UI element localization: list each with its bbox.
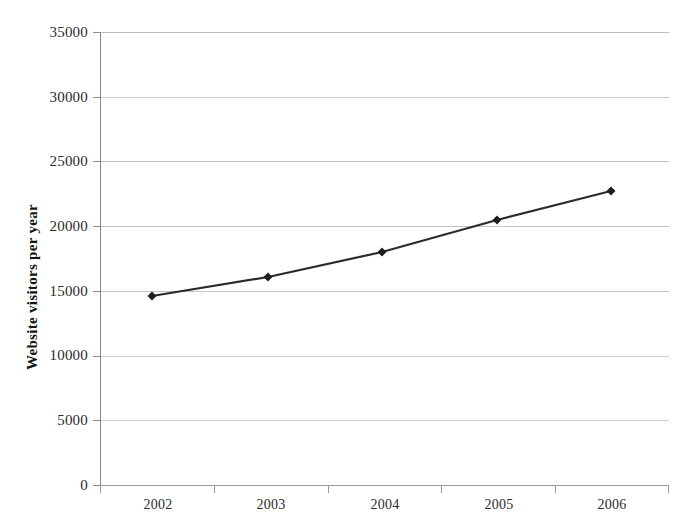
y-axis-title: Website visitors per year	[24, 70, 46, 370]
y-tick-label-0: 0	[24, 477, 88, 494]
x-tick-label-2003: 2003	[240, 497, 302, 513]
x-tick-label-2005: 2005	[468, 497, 530, 513]
x-tick-label-2004: 2004	[354, 497, 416, 513]
y-tick-label-5000: 5000	[24, 412, 88, 429]
x-tick-label-2006: 2006	[581, 497, 643, 513]
x-tick-label-2002: 2002	[127, 497, 189, 513]
line-chart: 35000 30000 25000 20000 15000 10000 5000…	[0, 0, 690, 529]
y-tick-label-35000: 35000	[24, 24, 88, 41]
chart-background	[0, 0, 690, 529]
chart-canvas	[0, 0, 690, 529]
